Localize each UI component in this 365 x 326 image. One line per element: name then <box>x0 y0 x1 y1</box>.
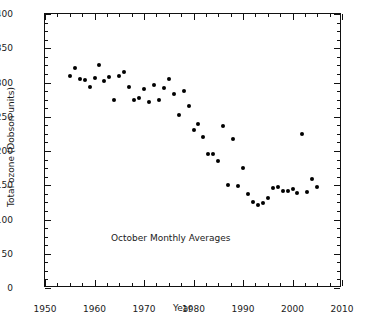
x-axis-tick <box>293 280 294 286</box>
data-point <box>137 96 141 100</box>
y-axis-tick <box>337 91 340 92</box>
data-point <box>142 87 146 91</box>
x-axis-tick <box>194 14 195 20</box>
y-axis-tick <box>337 237 340 238</box>
y-axis-tick <box>337 100 340 101</box>
x-axis-tick <box>169 283 170 286</box>
x-axis-tick <box>268 14 269 17</box>
y-axis-tick <box>45 194 48 195</box>
data-point <box>266 196 270 200</box>
data-point <box>93 76 97 80</box>
y-axis-tick <box>45 288 51 289</box>
x-axis-tick <box>243 14 244 20</box>
y-axis-tick <box>337 245 340 246</box>
y-axis-tick <box>45 185 51 186</box>
x-axis-tick <box>231 283 232 286</box>
figure-caption <box>0 318 365 326</box>
data-point <box>251 200 255 204</box>
data-point <box>122 70 126 74</box>
y-axis-tick <box>45 142 48 143</box>
x-axis-tick <box>280 14 281 17</box>
x-axis-tick <box>70 283 71 286</box>
x-axis-tick <box>268 283 269 286</box>
data-point <box>112 98 116 102</box>
x-axis-tick <box>255 283 256 286</box>
y-axis-tick <box>334 220 340 221</box>
x-axis-tick <box>330 283 331 286</box>
data-point <box>310 177 314 181</box>
plot-annotation: October Monthly Averages <box>111 233 230 243</box>
y-tick-label: 0 <box>7 283 13 293</box>
y-tick-label: 100 <box>0 215 13 225</box>
data-point <box>246 192 250 196</box>
y-axis-tick <box>337 134 340 135</box>
data-point <box>182 89 186 93</box>
y-axis-tick <box>45 83 51 84</box>
data-point <box>211 152 215 156</box>
y-axis-tick <box>45 31 48 32</box>
y-axis-tick <box>45 237 48 238</box>
y-tick-label: 250 <box>0 112 13 122</box>
x-axis-tick <box>107 14 108 17</box>
y-axis-tick <box>337 23 340 24</box>
y-axis-tick <box>337 74 340 75</box>
x-axis-tick <box>317 283 318 286</box>
data-point <box>97 63 101 67</box>
y-axis-tick <box>334 48 340 49</box>
y-axis-tick <box>45 48 51 49</box>
data-point <box>206 152 210 156</box>
data-point <box>236 184 240 188</box>
x-axis-tick <box>107 283 108 286</box>
y-tick-label: 350 <box>0 43 13 53</box>
y-axis-tick <box>334 288 340 289</box>
data-point <box>167 77 171 81</box>
y-axis-tick <box>334 14 340 15</box>
y-axis-tick <box>337 31 340 32</box>
y-axis-tick <box>337 65 340 66</box>
data-point <box>276 185 280 189</box>
data-point <box>231 137 235 141</box>
x-tick-label: 2000 <box>281 304 304 314</box>
data-point <box>226 183 230 187</box>
x-axis-tick <box>82 14 83 17</box>
y-axis-tick <box>337 168 340 169</box>
y-axis-tick <box>337 177 340 178</box>
data-point <box>187 104 191 108</box>
x-tick-label: 1950 <box>34 304 57 314</box>
x-tick-label: 1980 <box>182 304 205 314</box>
data-point <box>271 186 275 190</box>
y-axis-tick <box>337 202 340 203</box>
y-axis-tick <box>45 74 48 75</box>
x-axis-tick <box>119 283 120 286</box>
data-point <box>281 189 285 193</box>
x-axis-tick <box>70 14 71 17</box>
x-axis-tick <box>194 280 195 286</box>
y-axis-tick <box>337 40 340 41</box>
y-axis-tick <box>337 279 340 280</box>
x-axis-tick <box>280 283 281 286</box>
data-point <box>241 166 245 170</box>
x-tick-label: 1990 <box>232 304 255 314</box>
y-axis-tick <box>337 194 340 195</box>
plot-area <box>45 14 340 286</box>
y-axis-tick <box>334 254 340 255</box>
y-axis-tick <box>45 100 48 101</box>
x-tick-label: 1960 <box>83 304 106 314</box>
y-axis-tick <box>45 23 48 24</box>
y-axis-tick <box>337 57 340 58</box>
x-axis-tick <box>317 14 318 17</box>
data-point <box>315 185 319 189</box>
x-axis-tick <box>330 14 331 17</box>
x-axis-tick <box>132 14 133 17</box>
data-point <box>73 66 77 70</box>
data-point <box>132 98 136 102</box>
data-point <box>127 85 131 89</box>
data-point <box>192 128 196 132</box>
y-axis-tick <box>45 271 48 272</box>
data-point <box>162 86 166 90</box>
data-point <box>196 122 200 126</box>
x-axis-tick <box>293 14 294 20</box>
y-axis-tick <box>45 228 48 229</box>
y-axis-tick <box>45 211 48 212</box>
x-axis-tick <box>156 283 157 286</box>
